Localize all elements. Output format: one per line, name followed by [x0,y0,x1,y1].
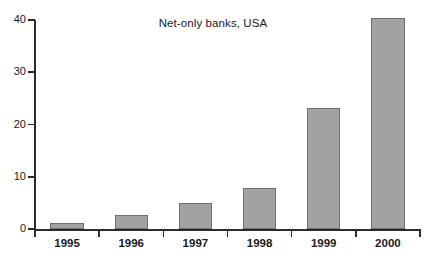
y-axis-tick-label: 10 [0,171,26,182]
y-axis-tick-label: 0 [0,223,26,234]
x-axis-tick [98,230,100,237]
bar-1999 [307,108,340,229]
x-axis-tick [227,230,229,237]
y-axis-tick [28,71,35,73]
x-axis-tick [163,230,165,237]
plot-area [35,20,420,229]
x-axis-label-1995: 1995 [35,238,99,250]
x-axis-tick [34,230,36,237]
x-axis-label-1997: 1997 [163,238,227,250]
y-axis-tick [28,19,35,21]
x-axis-tick [355,230,357,237]
y-axis-tick-label: 30 [0,66,26,77]
y-axis-tick-labels: 010203040 [0,0,26,260]
bar-2000 [371,18,404,229]
bar-chart: Net-only banks, USA 010203040 1995199619… [0,0,426,260]
y-axis-tick-label: 20 [0,119,26,130]
x-axis-tick [291,230,293,237]
x-axis-label-1996: 1996 [99,238,163,250]
y-axis-tick [28,176,35,178]
bar-1995 [50,223,83,229]
bar-1998 [243,188,276,229]
y-axis-tick-label: 40 [0,14,26,25]
x-axis-tick [419,230,421,237]
y-axis-tick [28,124,35,126]
x-axis-label-1999: 1999 [292,238,356,250]
x-axis-label-1998: 1998 [228,238,292,250]
bar-1996 [115,215,148,229]
bar-1997 [179,203,212,229]
x-axis-label-2000: 2000 [356,238,420,250]
